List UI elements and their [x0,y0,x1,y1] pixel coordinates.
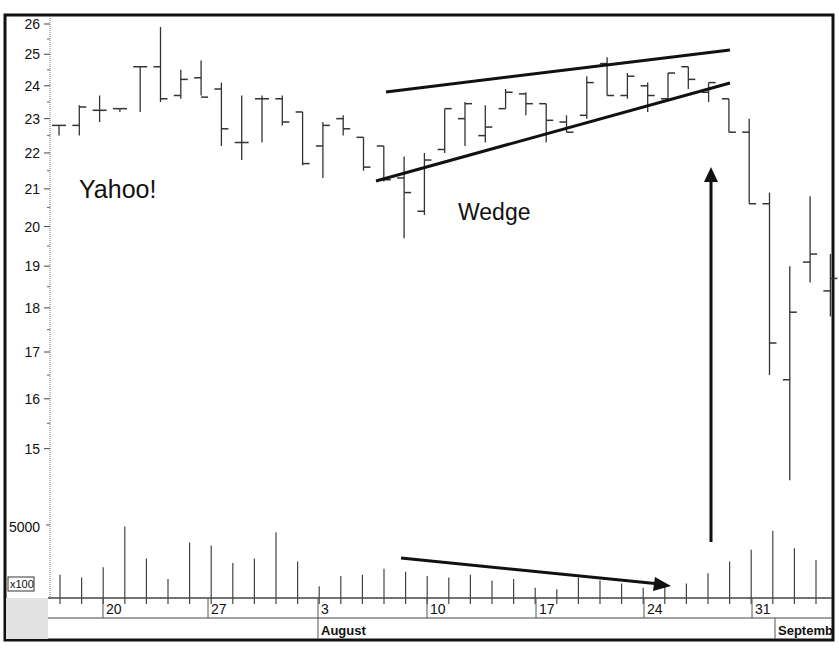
y-tick-label: 22 [24,145,40,161]
y-tick-label: 21 [24,181,40,197]
y-tick-label: 19 [24,258,40,274]
y-tick-label: 26 [24,16,40,32]
y-tick-label: 15 [24,441,40,457]
x-tick-label: 10 [430,601,446,617]
axis-corner [6,598,48,639]
y-tick-label: 20 [24,219,40,235]
x-tick-label: 20 [106,601,122,617]
ohlc-chart: 262524232221201918171615 5000 x100 20273… [0,0,839,658]
x-tick-label: 24 [647,601,663,617]
month-label: August [321,623,366,638]
stock-label: Yahoo! [79,175,156,203]
y-tick-label: 23 [24,111,40,127]
x-tick-label: 3 [321,601,329,617]
y-tick-label: 25 [24,46,40,62]
y-tick-label: 17 [24,344,40,360]
x-tick-label: 27 [211,601,227,617]
volume-multiplier-label: x100 [10,578,34,590]
month-label: Septemb [778,623,833,638]
x-tick-label: 17 [539,601,555,617]
y-tick-label: 16 [24,391,40,407]
x-tick-label: 31 [755,601,771,617]
pattern-label: Wedge [458,199,530,225]
y-tick-label: 24 [24,78,40,94]
y-tick-label: 18 [24,300,40,316]
chart-frame [5,15,833,640]
volume-tick-5000: 5000 [9,519,40,535]
